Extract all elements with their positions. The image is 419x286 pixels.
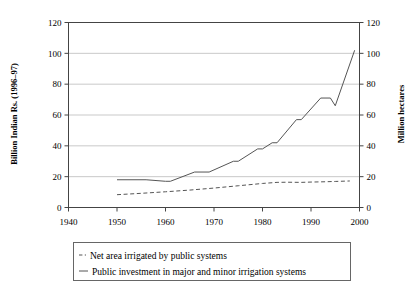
y-tick-label-right: 40	[367, 141, 377, 151]
y-tick-label-right: 0	[367, 203, 372, 213]
legend-label-net-area: Net area irrigated by public systems	[90, 251, 227, 261]
y-tick-label-right: 20	[367, 172, 377, 182]
y-axis-right-title: Million hectares	[396, 84, 406, 143]
chart-figure: 020406080100120 020406080100120 19401950…	[0, 0, 419, 286]
x-tick-label: 1960	[157, 217, 176, 227]
x-tick-label: 1950	[108, 217, 127, 227]
x-tick-label: 1980	[254, 217, 273, 227]
y-tick-label-left: 80	[53, 79, 63, 89]
x-tick-label: 1990	[302, 217, 321, 227]
x-tick-label: 1940	[60, 217, 79, 227]
y-tick-label-right: 100	[367, 49, 381, 59]
y-tick-label-right: 120	[367, 18, 381, 28]
y-tick-label-left: 120	[48, 18, 62, 28]
y-tick-label-left: 60	[53, 110, 63, 120]
chart-svg: 020406080100120 020406080100120 19401950…	[0, 0, 419, 286]
y-tick-label-right: 60	[367, 110, 377, 120]
y-tick-label-left: 40	[53, 141, 63, 151]
y-tick-label-left: 100	[48, 49, 62, 59]
x-tick-label: 2000	[351, 217, 370, 227]
x-tick-label: 1970	[205, 217, 224, 227]
y-tick-label-right: 80	[367, 79, 377, 89]
canvas-background	[0, 0, 419, 286]
y-axis-left-title: Billion Indian Rs. (1996–97)	[9, 63, 19, 165]
y-tick-label-left: 20	[53, 172, 63, 182]
legend-label-public-investment: Public investment in major and minor irr…	[92, 267, 306, 277]
y-tick-label-left: 0	[57, 203, 62, 213]
